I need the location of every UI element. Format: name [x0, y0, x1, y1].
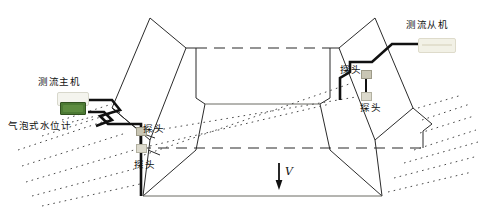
label-slave-unit: 测流从机	[406, 17, 448, 31]
flow-measurement-slave-device[interactable]	[418, 38, 456, 53]
right-slope-hatching	[388, 95, 478, 192]
probe-right-upper-sensor[interactable]	[361, 70, 372, 79]
master-device-screen	[60, 102, 86, 115]
label-flow-velocity: V	[285, 165, 293, 178]
flow-arrow-icon	[276, 163, 283, 190]
label-probe-left-upper: 探头	[143, 121, 164, 135]
gauge-leader-line	[72, 116, 96, 122]
probe-left-lower-sensor[interactable]	[136, 144, 147, 153]
label-probe-right-upper: 探头	[340, 62, 361, 76]
cable-left	[88, 100, 141, 196]
master-screen-glass	[63, 105, 83, 112]
diagram-canvas: 测流主机 测流从机 气泡式水位计 探头 探头 探头 探头 V	[0, 0, 479, 219]
slave-device-slit	[422, 44, 452, 46]
label-master-unit: 测流主机	[38, 74, 80, 88]
hidden-edge-dashes	[140, 48, 423, 148]
probe-stalks	[141, 78, 366, 148]
label-probe-right-lower: 探头	[360, 100, 381, 114]
acoustic-path-lines	[144, 83, 356, 155]
label-bubble-water-level-gauge: 气泡式水位计	[8, 118, 71, 132]
label-probe-left-lower: 探头	[134, 157, 155, 171]
flow-measurement-master-device[interactable]	[57, 92, 87, 114]
